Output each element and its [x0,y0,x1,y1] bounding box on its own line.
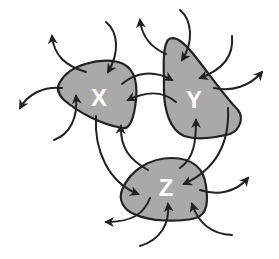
arrow-x-out-left [20,88,62,108]
systems-diagram: X Y Z [0,0,279,259]
node-x: X [58,61,137,128]
node-z-label: Z [159,174,174,201]
arrow-y-out-right [214,72,262,89]
node-y-label: Y [186,86,202,113]
node-x-label: X [91,84,107,111]
arrow-z-to-x [121,126,148,170]
arrow-y-out-topleft [140,20,166,54]
